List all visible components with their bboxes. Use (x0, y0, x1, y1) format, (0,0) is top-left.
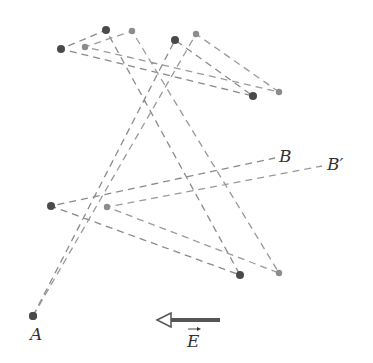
label-point-b-prime: B′ (326, 154, 343, 174)
collision-point (129, 28, 135, 34)
label-point-a: A (28, 324, 42, 344)
start-point-a (29, 312, 37, 320)
collision-point (82, 44, 88, 50)
collision-point (102, 26, 110, 34)
collision-point (57, 45, 65, 53)
collision-point (276, 89, 282, 95)
electron-drift-diagram: A B B′ E (0, 0, 373, 363)
collision-point (193, 31, 199, 37)
collision-point (276, 270, 282, 276)
label-field-e: E (186, 327, 201, 351)
collision-point (47, 202, 55, 210)
collision-point (104, 204, 110, 210)
collision-point (249, 92, 257, 100)
field-e-text: E (186, 331, 200, 351)
collision-point (171, 36, 179, 44)
collision-point (236, 271, 244, 279)
label-point-b: B (278, 146, 292, 166)
electric-field-arrow-icon (157, 313, 220, 327)
